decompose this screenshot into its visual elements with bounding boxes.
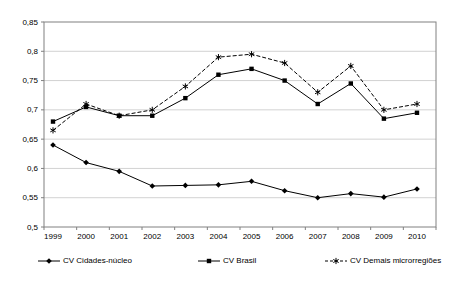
data-point-marker: [414, 101, 419, 107]
data-point-marker: [207, 258, 211, 262]
legend-label: CV Brasil: [223, 256, 256, 265]
square-legend-key-icon: [198, 257, 220, 265]
data-point-marker: [348, 63, 353, 69]
square-marker-icon: [150, 114, 154, 118]
data-point-marker: [83, 160, 89, 166]
data-point-marker: [282, 188, 288, 194]
diamond-marker-icon: [46, 258, 52, 264]
x-tick-label: 2004: [210, 232, 228, 241]
diamond-marker-icon: [183, 183, 189, 189]
legend-label: CV Cidades-núcleo: [63, 256, 132, 265]
diamond-marker-icon: [149, 183, 155, 189]
x-tick-label: 1999: [44, 232, 62, 241]
data-point-marker: [382, 116, 386, 120]
x-tick-label: 2005: [243, 232, 261, 241]
data-point-marker: [216, 73, 220, 77]
data-point-marker: [316, 102, 320, 106]
y-tick-label: 0,55: [22, 193, 38, 202]
x-tick-label: 2007: [309, 232, 327, 241]
line-chart: 0,50,550,60,650,70,750,80,85199920002001…: [0, 0, 454, 282]
data-point-marker: [415, 111, 419, 115]
legend-item-cv-demais-microrregi-es: CV Demais microrregiões: [325, 256, 441, 265]
data-point-marker: [50, 142, 56, 148]
data-point-marker: [381, 194, 387, 200]
square-marker-icon: [316, 102, 320, 106]
plot-area-svg: 0,50,550,60,650,70,750,80,85199920002001…: [0, 0, 454, 282]
diamond-marker-icon: [381, 194, 387, 200]
data-point-marker: [50, 127, 55, 133]
diamond-marker-icon: [282, 188, 288, 194]
diamond-legend-key-icon: [38, 257, 60, 265]
square-marker-icon: [249, 67, 253, 71]
data-point-marker: [349, 81, 353, 85]
x-tick-label: 2010: [408, 232, 426, 241]
data-point-marker: [249, 179, 255, 185]
data-point-marker: [116, 169, 122, 175]
series-line-cv-cidades-n-cleo: [53, 145, 417, 198]
diamond-marker-icon: [83, 160, 89, 166]
x-tick-label: 2001: [110, 232, 128, 241]
legend-label: CV Demais microrregiões: [350, 256, 441, 265]
y-tick-label: 0,8: [27, 47, 39, 56]
data-point-marker: [183, 183, 189, 189]
diamond-marker-icon: [216, 182, 222, 188]
data-point-marker: [249, 67, 253, 71]
y-tick-label: 0,75: [22, 76, 38, 85]
data-point-marker: [183, 83, 188, 89]
x-tick-label: 2003: [176, 232, 194, 241]
data-point-marker: [348, 191, 354, 197]
legend-item-cv-brasil: CV Brasil: [198, 256, 256, 265]
data-point-marker: [315, 195, 321, 201]
data-point-marker: [149, 183, 155, 189]
data-point-marker: [315, 89, 320, 95]
square-marker-icon: [51, 119, 55, 123]
square-marker-icon: [183, 96, 187, 100]
x-tick-label: 2000: [77, 232, 95, 241]
data-point-marker: [150, 114, 154, 118]
x-tick-label: 2006: [276, 232, 294, 241]
x-tick-label: 2002: [143, 232, 161, 241]
square-marker-icon: [415, 111, 419, 115]
diamond-marker-icon: [249, 179, 255, 185]
data-point-marker: [216, 182, 222, 188]
diamond-marker-icon: [414, 186, 420, 192]
y-tick-label: 0,85: [22, 18, 38, 27]
data-point-marker: [51, 119, 55, 123]
square-marker-icon: [207, 258, 211, 262]
x-tick-label: 2008: [342, 232, 360, 241]
square-marker-icon: [282, 78, 286, 82]
data-point-marker: [282, 78, 286, 82]
y-tick-label: 0,65: [22, 135, 38, 144]
diamond-marker-icon: [348, 191, 354, 197]
square-marker-icon: [349, 81, 353, 85]
legend-item-cv-cidades-n-cleo: CV Cidades-núcleo: [38, 256, 132, 265]
diamond-marker-icon: [50, 142, 56, 148]
series-line-cv-demais-microrregi-es: [53, 54, 417, 130]
y-tick-label: 0,7: [27, 105, 39, 114]
series-line-cv-brasil: [53, 69, 417, 122]
y-tick-label: 0,5: [27, 223, 39, 232]
data-point-marker: [46, 258, 52, 264]
y-tick-label: 0,6: [27, 164, 39, 173]
data-point-marker: [183, 96, 187, 100]
diamond-marker-icon: [315, 195, 321, 201]
square-marker-icon: [216, 73, 220, 77]
data-point-marker: [414, 186, 420, 192]
square-marker-icon: [382, 116, 386, 120]
x-tick-label: 2009: [375, 232, 393, 241]
star-legend-key-icon: [325, 257, 347, 265]
diamond-marker-icon: [116, 169, 122, 175]
